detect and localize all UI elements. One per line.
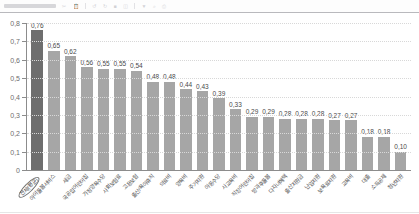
x-axis-label-slot: 아동수당 — [210, 171, 227, 214]
y-axis-tick — [22, 60, 26, 61]
zoom-icon[interactable]: ⌕ — [153, 4, 157, 9]
bar[interactable]: 0,28 — [312, 119, 324, 170]
x-axis-labels: 전체(평균)아이돌봄서비스세금국공립어린이집가정양육수당사회보험료고용보험출산/… — [26, 171, 411, 214]
bar[interactable]: 0,27 — [345, 120, 357, 170]
bar-value-label: 0,10 — [394, 144, 407, 151]
x-axis-label-slot: 대출 — [359, 171, 376, 214]
bar[interactable]: 0,29 — [246, 117, 258, 170]
bar-value-label: 0,27 — [345, 113, 358, 120]
bar[interactable]: 0,29 — [263, 117, 275, 170]
cut-icon[interactable]: ✂ — [62, 4, 67, 9]
chart-icon[interactable]: ■ — [114, 4, 118, 9]
footer-divider — [0, 212, 419, 213]
gridline — [27, 152, 411, 153]
undo-icon[interactable]: ↺ — [92, 4, 97, 9]
bar[interactable]: 0,10 — [395, 152, 407, 170]
gridline — [27, 41, 411, 42]
bar-value-label: 0,65 — [47, 43, 60, 50]
copy-icon[interactable]: 📋 — [73, 4, 80, 9]
x-axis-label-slot: 교육비 — [343, 171, 360, 214]
toolbar-title-chip — [4, 4, 56, 8]
x-axis-label-slot: 의료비 — [161, 171, 178, 214]
chart-page: ✂ 📋 ↺ ↻ ■ ◫ ▼ ⌕ ⎙ % 0,760,650,620,560,55… — [0, 0, 419, 214]
bar-value-label: 0,54 — [130, 63, 143, 70]
bar[interactable]: 0,18 — [378, 137, 390, 170]
bar[interactable]: 0,27 — [329, 120, 341, 170]
y-axis-tick-label: 0,7 — [10, 38, 20, 45]
y-axis-tick — [22, 152, 26, 153]
y-axis-tick-label: 0 — [16, 167, 20, 174]
bar[interactable]: 0,62 — [65, 56, 77, 170]
x-axis-label-slot: 보육료지원 — [326, 171, 343, 214]
y-axis-tick — [22, 115, 26, 116]
bar-chart: % 0,760,650,620,560,550,550,540,480,480,… — [0, 14, 419, 214]
gridline — [27, 115, 411, 116]
filter-icon[interactable]: ▼ — [141, 4, 146, 9]
y-axis-tick — [22, 23, 26, 24]
y-axis-tick — [22, 133, 26, 134]
bar[interactable]: 0,18 — [362, 137, 374, 170]
toolbar-separator — [134, 3, 135, 9]
y-axis-tick-label: 0,2 — [10, 130, 20, 137]
print-icon[interactable]: ⎙ — [162, 4, 167, 9]
x-axis-label-slot: 사회보험료 — [111, 171, 128, 214]
bar[interactable]: 0,44 — [180, 89, 192, 170]
y-axis-tick — [22, 78, 26, 79]
bar-value-label: 0,55 — [97, 61, 110, 68]
y-axis-tick-label: 0,1 — [10, 148, 20, 155]
x-axis-label-slot: 아이돌봄서비스 — [45, 171, 62, 214]
x-axis-label-slot: 주거지원 — [194, 171, 211, 214]
gridline — [27, 133, 411, 134]
bar[interactable]: 0,56 — [81, 67, 93, 170]
bar[interactable]: 0,48 — [147, 82, 159, 170]
x-axis-label-slot: 청년지원 — [392, 171, 409, 214]
gridline — [27, 60, 411, 61]
bar-value-label: 0,33 — [229, 102, 242, 109]
plot-area: % 0,760,650,620,560,550,550,540,480,480,… — [26, 23, 411, 171]
table-icon[interactable]: ◫ — [123, 4, 128, 9]
bar[interactable]: 0,55 — [98, 69, 110, 170]
bar-value-label: 0,43 — [196, 84, 209, 91]
x-axis-label-slot: 출산/육아휴직 — [144, 171, 161, 214]
bar[interactable]: 0,43 — [197, 91, 209, 170]
y-axis-tick-label: 0,6 — [10, 56, 20, 63]
bar-highlighted[interactable]: 0,76 — [31, 30, 43, 170]
bar[interactable]: 0,28 — [279, 119, 291, 170]
bar[interactable]: 0,28 — [296, 119, 308, 170]
redo-icon[interactable]: ↻ — [103, 4, 108, 9]
gridline — [27, 78, 411, 79]
y-axis-tick-label: 0,8 — [10, 20, 20, 27]
y-axis-tick — [22, 41, 26, 42]
x-axis-label[interactable]: 대출 — [361, 174, 372, 185]
gridline — [27, 23, 411, 24]
y-axis-tick-label: 0,3 — [10, 111, 20, 118]
x-axis-label[interactable]: 의료비 — [159, 174, 173, 188]
bar-value-label: 0,62 — [64, 49, 77, 56]
bar[interactable]: 0,48 — [164, 82, 176, 170]
x-axis-label[interactable]: 세금 — [63, 174, 74, 185]
bar-value-label: 0,27 — [328, 113, 341, 120]
bar[interactable]: 0,54 — [131, 71, 143, 170]
bar[interactable]: 0,33 — [230, 109, 242, 170]
x-axis-label-slot: 소득공제 — [376, 171, 393, 214]
bar-value-label: 0,55 — [114, 61, 127, 68]
x-axis-label-slot: 양육비 — [177, 171, 194, 214]
x-axis-label-slot: 출산지원금 — [293, 171, 310, 214]
y-axis-tick-label: 0,4 — [10, 93, 20, 100]
x-axis-label[interactable]: 교육비 — [341, 174, 355, 188]
toolbar-separator — [85, 3, 86, 9]
bar[interactable]: 0,55 — [114, 69, 126, 170]
y-axis-tick-label: 0,5 — [10, 75, 20, 82]
toolbar: ✂ 📋 ↺ ↻ ■ ◫ ▼ ⌕ ⎙ — [0, 0, 419, 13]
bar-value-label: 0,44 — [180, 82, 193, 89]
gridline — [27, 97, 411, 98]
y-axis-tick — [22, 97, 26, 98]
